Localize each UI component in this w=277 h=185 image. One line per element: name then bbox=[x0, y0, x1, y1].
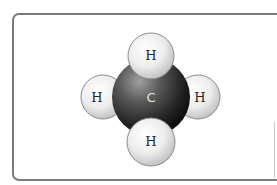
hydrogen-atom-bottom: H bbox=[127, 118, 175, 166]
methane-molecule: H H C H H bbox=[0, 0, 277, 185]
carbon-label: C bbox=[146, 90, 155, 105]
hydrogen-label: H bbox=[91, 90, 102, 105]
hydrogen-label: H bbox=[145, 48, 156, 63]
hydrogen-label: H bbox=[145, 134, 156, 149]
hydrogen-label: H bbox=[194, 90, 205, 105]
hydrogen-atom-top: H bbox=[128, 33, 174, 79]
